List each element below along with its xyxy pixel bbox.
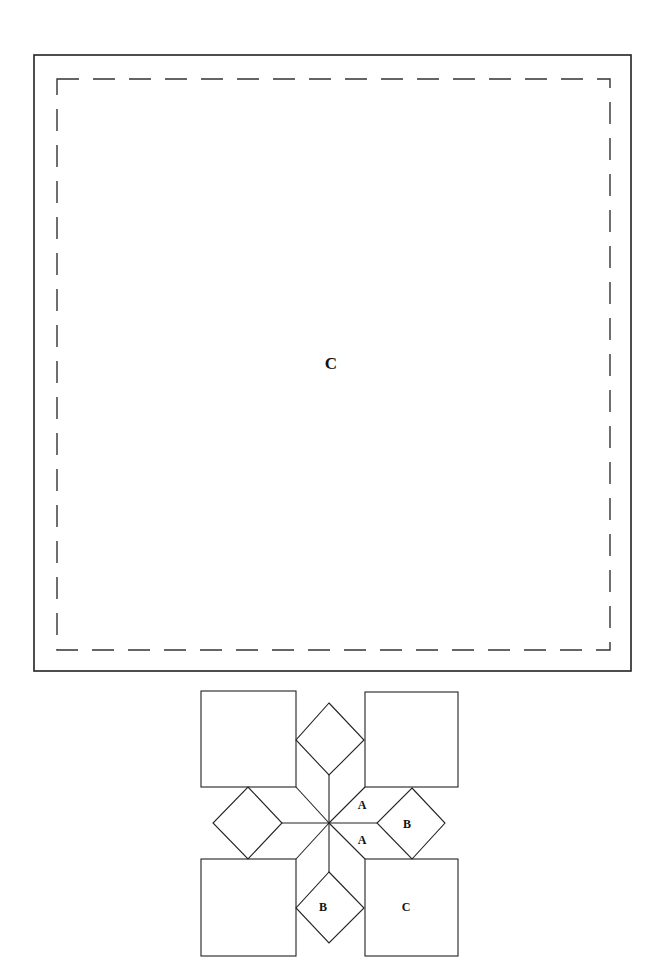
label-a: A xyxy=(358,833,367,847)
piece-label: C xyxy=(325,354,337,373)
diamond-left xyxy=(213,787,282,859)
square-bottom-left xyxy=(201,859,296,956)
label-b: B xyxy=(403,817,411,831)
template-piece-c: C xyxy=(34,55,631,671)
quilt-pattern-sheet: C AABBC xyxy=(0,0,664,963)
star-spokes xyxy=(282,775,377,872)
square-bottom-right xyxy=(365,859,458,956)
square-top-right xyxy=(365,692,458,787)
diamond-bottom xyxy=(296,872,364,943)
label-a: A xyxy=(358,798,367,812)
label-b: B xyxy=(319,900,327,914)
block-assembly-diagram xyxy=(201,691,458,956)
label-c: C xyxy=(402,900,411,914)
diamond-top xyxy=(296,703,364,775)
square-top-left xyxy=(201,691,296,787)
